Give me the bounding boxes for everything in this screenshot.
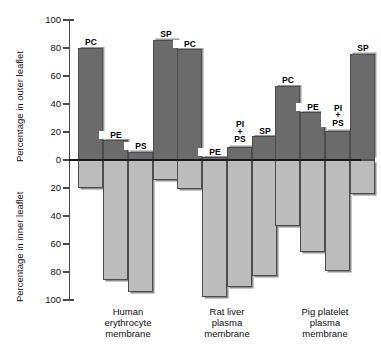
- bar-inner-2-SP: [350, 160, 375, 194]
- bar-inner-1-PE: [202, 160, 227, 297]
- bar-inner-2-PC: [275, 160, 300, 226]
- bar-label-0-SP: SP: [149, 30, 183, 39]
- bar-inner-0-PS: [128, 160, 153, 292]
- bar-label-0-PE: PE: [99, 131, 133, 140]
- bar-inner-2-PIPS: [325, 160, 350, 271]
- zero-baseline: [69, 159, 361, 161]
- bar-inner-1-PIPS: [227, 160, 252, 287]
- bar-outer-1-SP: [252, 136, 277, 160]
- bar-inner-2-PE: [300, 160, 325, 252]
- bar-outer-2-SP: [350, 54, 375, 160]
- bar-inner-0-PC: [78, 160, 103, 188]
- bar-label-2-SP: SP: [346, 44, 380, 53]
- bar-inner-0-PE: [103, 160, 128, 280]
- bar-outer-0-SP: [153, 40, 178, 160]
- bar-inner-0-SP: [153, 160, 178, 180]
- bar-label-1-PC: PC: [173, 40, 207, 49]
- category-label-2: Pig plateletplasmamembrane: [265, 306, 381, 339]
- bar-inner-1-PC: [177, 160, 202, 189]
- bar-outer-2-PC: [275, 86, 300, 160]
- bar-label-0-PC: PC: [74, 38, 108, 47]
- bar-inner-1-SP: [252, 160, 277, 276]
- bar-outer-2-PIPS: [325, 131, 350, 160]
- bar-label-2-PC: PC: [271, 76, 305, 85]
- bar-outer-1-PC: [177, 49, 202, 160]
- bar-outer-0-PC: [78, 48, 103, 160]
